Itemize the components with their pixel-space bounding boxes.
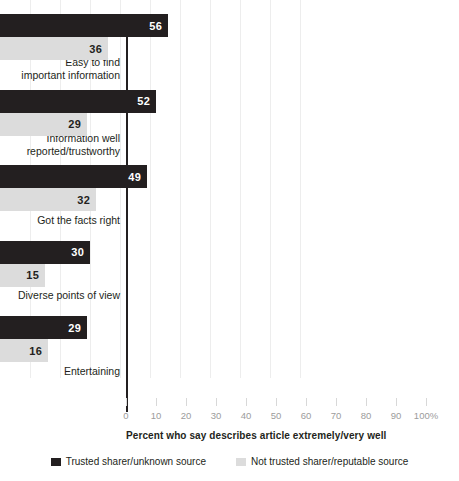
x-tick-mark	[126, 398, 127, 406]
legend-item[interactable]: Not trusted sharer/reputable source	[236, 456, 408, 467]
x-tick-mark	[426, 398, 427, 406]
x-tick-label: 60	[301, 410, 312, 421]
bar-groups: 56365229493230152916	[0, 0, 300, 378]
bar-value-label: 15	[26, 269, 45, 281]
bar-value-label: 56	[149, 20, 168, 32]
bar[interactable]: 52	[0, 90, 156, 113]
bar-row: 15	[0, 264, 300, 287]
x-tick-label: 40	[241, 410, 252, 421]
bar-value-label: 49	[128, 171, 147, 183]
bar-value-label: 16	[29, 345, 48, 357]
bar[interactable]: 29	[0, 316, 87, 339]
legend-swatch-icon	[51, 458, 61, 466]
x-axis-title: Percent who say describes article extrem…	[126, 430, 386, 441]
bar-row: 52	[0, 90, 300, 113]
bar-row: 29	[0, 316, 300, 339]
bar-group: 4932	[0, 165, 300, 215]
bar-row: 29	[0, 113, 300, 136]
bar-value-label: 29	[68, 118, 87, 130]
x-axis-tick-labels: 0102030405060708090100%	[0, 410, 459, 424]
x-tick-mark	[216, 398, 217, 406]
x-tick-label: 50	[271, 410, 282, 421]
bar[interactable]: 49	[0, 165, 147, 188]
bar[interactable]: 29	[0, 113, 87, 136]
bar-value-label: 52	[137, 95, 156, 107]
bar-row: 36	[0, 37, 300, 60]
bar-value-label: 32	[77, 194, 96, 206]
bar[interactable]: 15	[0, 264, 45, 287]
chart-legend: Trusted sharer/unknown sourceNot trusted…	[0, 456, 459, 467]
x-tick-label: 70	[331, 410, 342, 421]
x-tick-mark	[306, 398, 307, 406]
bar-group: 3015	[0, 241, 300, 291]
bar[interactable]: 30	[0, 241, 90, 264]
bar-value-label: 29	[68, 322, 87, 334]
bar-row: 16	[0, 339, 300, 362]
x-tick-label: 10	[151, 410, 162, 421]
bar-chart: Easy to findimportant informationInforma…	[0, 0, 459, 481]
x-tick-mark	[396, 398, 397, 406]
x-tick-mark	[366, 398, 367, 406]
legend-swatch-icon	[236, 458, 246, 466]
x-axis-tick-marks	[126, 398, 426, 408]
bar-value-label: 30	[71, 246, 90, 258]
bar-group: 2916	[0, 316, 300, 366]
x-tick-mark	[156, 398, 157, 406]
bar[interactable]: 32	[0, 188, 96, 211]
bar-value-label: 36	[89, 43, 108, 55]
bar-group: 5229	[0, 90, 300, 140]
bar-row: 49	[0, 165, 300, 188]
bar[interactable]: 16	[0, 339, 48, 362]
x-tick-label: 30	[211, 410, 222, 421]
legend-label: Not trusted sharer/reputable source	[251, 456, 408, 467]
bar[interactable]: 36	[0, 37, 108, 60]
x-tick-label: 100%	[414, 410, 438, 421]
legend-item[interactable]: Trusted sharer/unknown source	[51, 456, 206, 467]
bar[interactable]: 56	[0, 14, 168, 37]
legend-label: Trusted sharer/unknown source	[66, 456, 206, 467]
x-tick-label: 20	[181, 410, 192, 421]
gridline	[300, 0, 301, 378]
x-tick-mark	[246, 398, 247, 406]
x-tick-mark	[336, 398, 337, 406]
bar-row: 32	[0, 188, 300, 211]
bar-group: 5636	[0, 14, 300, 64]
bar-row: 30	[0, 241, 300, 264]
x-tick-label: 90	[391, 410, 402, 421]
x-tick-mark	[276, 398, 277, 406]
bar-row: 56	[0, 14, 300, 37]
x-tick-mark	[186, 398, 187, 406]
x-tick-label: 80	[361, 410, 372, 421]
x-tick-label: 0	[123, 410, 128, 421]
